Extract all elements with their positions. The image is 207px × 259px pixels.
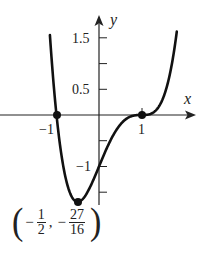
y-tick-label-neg1: −1 — [76, 159, 91, 174]
fraction-y-numerator: 27 — [69, 208, 85, 223]
fraction-x-numerator: 1 — [37, 208, 46, 223]
y-axis-label: y — [108, 11, 118, 29]
open-paren: ( — [12, 203, 23, 240]
comma: , — [49, 214, 53, 231]
y-tick-label-1-5: 1.5 — [72, 31, 90, 46]
minimum-point-label: ( − 1 2 , − 27 16 ) — [12, 205, 101, 239]
fraction-x: 1 2 — [37, 208, 46, 237]
minus-sign: − — [58, 214, 66, 231]
point-neg1-0 — [53, 111, 61, 119]
close-paren: ) — [90, 203, 101, 240]
fraction-y: 27 16 — [69, 208, 85, 237]
x-tick-label-neg1: −1 — [39, 122, 54, 137]
x-tick-label-1: 1 — [138, 122, 145, 137]
x-axis-label: x — [183, 90, 191, 107]
function-curve — [50, 32, 177, 202]
point-1-0 — [138, 111, 146, 119]
fraction-y-denominator: 16 — [70, 223, 84, 237]
y-tick-label-0-5: 0.5 — [72, 82, 90, 97]
fraction-x-denominator: 2 — [38, 223, 45, 237]
minus-sign: − — [25, 214, 33, 231]
